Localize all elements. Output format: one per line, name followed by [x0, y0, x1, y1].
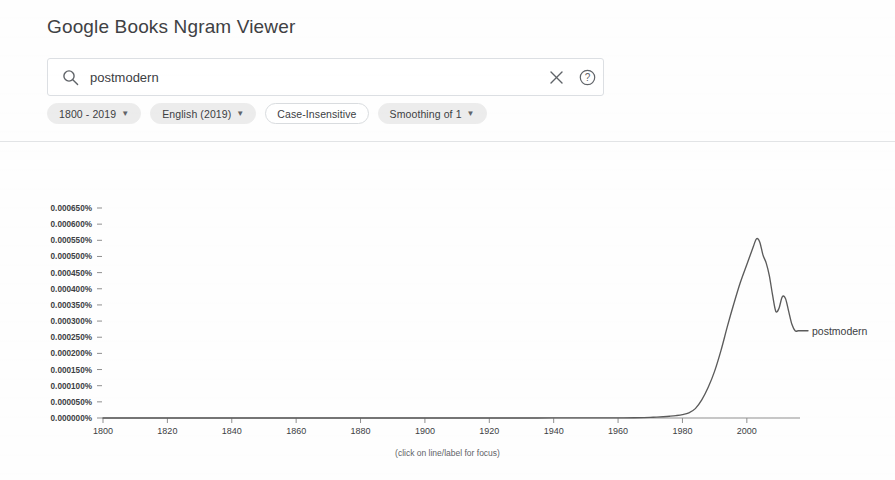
chip-smoothing[interactable]: Smoothing of 1 ▼	[378, 103, 487, 124]
chip-date-range-label: 1800 - 2019	[59, 108, 116, 120]
chevron-down-icon: ▼	[467, 110, 475, 118]
search-input[interactable]	[90, 59, 570, 95]
x-axis-tick-label: 1940	[544, 426, 564, 436]
chip-case-insensitive-label: Case-Insensitive	[277, 108, 356, 120]
y-axis-tick-label: 0.000000%	[51, 414, 93, 423]
y-axis-tick-label: 0.000350%	[51, 301, 93, 310]
ngram-chart[interactable]: 0.000000%0.000050%0.000100%0.000150%0.00…	[0, 150, 895, 470]
x-axis-tick-label: 1820	[157, 426, 177, 436]
x-axis-tick-label: 1980	[672, 426, 692, 436]
x-axis-tick-label: 1920	[479, 426, 499, 436]
y-axis-tick-label: 0.000300%	[51, 317, 93, 326]
chip-corpus-label: English (2019)	[162, 108, 231, 120]
y-axis-tick-label: 0.000150%	[51, 366, 93, 375]
chevron-down-icon: ▼	[236, 110, 244, 118]
x-axis-tick-label: 1800	[93, 426, 113, 436]
series-label[interactable]: postmodern	[812, 325, 868, 337]
x-axis-tick-label: 1900	[415, 426, 435, 436]
series-line[interactable]	[103, 238, 808, 418]
y-axis-tick-label: 0.000250%	[51, 333, 93, 342]
search-icon	[62, 69, 79, 86]
y-axis-tick-label: 0.000550%	[51, 236, 93, 245]
filter-chip-row: 1800 - 2019 ▼ English (2019) ▼ Case-Inse…	[47, 103, 487, 124]
y-axis-tick-label: 0.000200%	[51, 349, 93, 358]
y-axis-tick-label: 0.000600%	[51, 220, 93, 229]
x-axis-tick-label: 2000	[737, 426, 757, 436]
y-axis-tick-label: 0.000100%	[51, 382, 93, 391]
y-axis-tick-label: 0.000050%	[51, 398, 93, 407]
x-axis-tick-label: 1880	[351, 426, 371, 436]
chip-date-range[interactable]: 1800 - 2019 ▼	[47, 103, 141, 124]
x-axis-tick-label: 1960	[608, 426, 628, 436]
y-axis-tick-label: 0.000400%	[51, 285, 93, 294]
chart-canvas[interactable]: 0.000000%0.000050%0.000100%0.000150%0.00…	[0, 150, 895, 450]
ngram-viewer-app: Google Books Ngram Viewer ? 1800 - 2019	[0, 0, 895, 480]
svg-text:?: ?	[585, 72, 591, 83]
page-title: Google Books Ngram Viewer	[47, 16, 295, 38]
chip-smoothing-label: Smoothing of 1	[390, 108, 462, 120]
help-circle-icon[interactable]: ?	[579, 69, 596, 86]
close-icon[interactable]	[549, 70, 564, 85]
y-axis-tick-label: 0.000650%	[51, 204, 93, 213]
x-axis-tick-label: 1860	[286, 426, 306, 436]
chevron-down-icon: ▼	[121, 110, 129, 118]
y-axis-tick-label: 0.000500%	[51, 252, 93, 261]
chart-footnote: (click on line/label for focus)	[0, 448, 895, 458]
header-divider	[0, 141, 895, 142]
search-box[interactable]: ?	[47, 58, 604, 96]
chip-case-insensitive[interactable]: Case-Insensitive	[265, 103, 368, 124]
chip-corpus[interactable]: English (2019) ▼	[150, 103, 256, 124]
y-axis-tick-label: 0.000450%	[51, 269, 93, 278]
x-axis-tick-label: 1840	[222, 426, 242, 436]
